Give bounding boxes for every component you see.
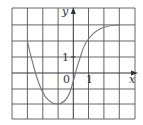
function-graph: y x 0 1 1 (0, 0, 143, 125)
y-tick-label-1: 1 (62, 51, 69, 64)
x-tick-label-1: 1 (86, 73, 93, 86)
x-axis-label: x (129, 73, 136, 86)
origin-label: 0 (63, 73, 70, 86)
y-axis-label: y (61, 5, 69, 18)
